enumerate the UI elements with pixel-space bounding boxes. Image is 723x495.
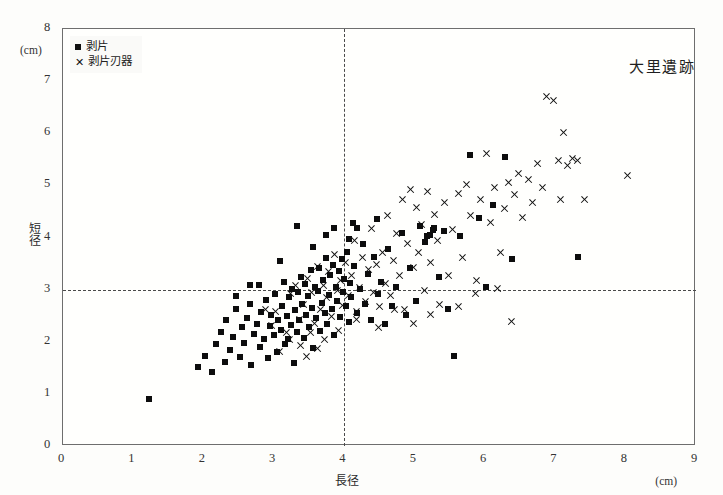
data-point-flake: [244, 315, 250, 321]
data-point-flake: [256, 282, 262, 288]
data-point-flake: [382, 321, 388, 327]
data-point-flake: [445, 306, 451, 312]
data-point-flake: [457, 233, 463, 239]
data-point-flake-blade: [409, 263, 418, 272]
data-point-flake-blade: [524, 175, 533, 184]
y-tick-label: 8: [44, 20, 50, 35]
data-point-flake-blade: [559, 128, 568, 137]
data-point-flake-blade: [350, 236, 359, 245]
data-point-flake-blade: [414, 248, 423, 257]
data-point-flake-blade: [493, 284, 502, 293]
data-point-flake-blade: [390, 305, 399, 314]
data-point-flake-blade: [500, 204, 509, 213]
data-point-flake: [303, 312, 309, 318]
site-title: 大里遺跡: [629, 55, 695, 76]
data-point-flake-blade: [426, 310, 435, 319]
data-point-flake-blade: [462, 180, 471, 189]
data-point-flake: [350, 220, 356, 226]
data-point-flake-blade: [374, 323, 383, 332]
data-point-flake: [257, 344, 263, 350]
data-point-flake-blade: [528, 198, 537, 207]
square-marker-icon: [75, 44, 81, 50]
data-point-flake: [146, 396, 152, 402]
data-point-flake-blade: [507, 317, 516, 326]
data-point-flake-blade: [367, 224, 376, 233]
data-point-flake: [354, 225, 360, 231]
data-point-flake-blade: [341, 258, 350, 267]
data-point-flake: [294, 223, 300, 229]
data-point-flake: [476, 215, 482, 221]
data-point-flake: [233, 293, 239, 299]
x-tick-label: 0: [58, 451, 64, 466]
data-point-flake: [202, 353, 208, 359]
data-point-flake-blade: [440, 198, 449, 207]
data-point-flake-blade: [476, 195, 485, 204]
data-point-flake-blade: [406, 185, 415, 194]
legend-label-flake-blade: 剥片刃器: [88, 54, 132, 69]
x-axis-title: 長径: [335, 471, 359, 489]
x-tick-label: 1: [128, 451, 134, 466]
data-point-flake-blade: [420, 286, 429, 295]
data-point-flake-blade: [458, 253, 467, 262]
data-point-flake: [295, 289, 301, 295]
data-point-flake: [413, 298, 419, 304]
data-point-flake-blade: [285, 335, 294, 344]
data-point-flake-blade: [361, 297, 370, 306]
data-point-flake: [323, 255, 329, 261]
data-point-flake-blade: [324, 267, 333, 276]
data-point-flake-blade: [336, 276, 345, 285]
x-marker-icon: ✕: [75, 58, 83, 66]
data-point-flake-blade: [518, 213, 527, 222]
data-point-flake-blade: [426, 258, 435, 267]
data-point-flake-blade: [355, 283, 364, 292]
data-point-flake-blade: [471, 289, 480, 298]
y-tick-label: 0: [44, 437, 50, 452]
data-point-flake-blade: [398, 195, 407, 204]
data-point-flake: [291, 360, 297, 366]
data-point-flake: [247, 282, 253, 288]
data-point-flake-blade: [261, 305, 270, 314]
data-point-flake-blade: [286, 289, 295, 298]
legend-item-flake: 剥片: [75, 39, 132, 54]
data-point-flake-blade: [381, 279, 390, 288]
data-point-flake-blade: [299, 300, 308, 309]
data-point-flake: [436, 274, 442, 280]
data-point-flake-blade: [448, 225, 457, 234]
data-point-flake-blade: [554, 156, 563, 165]
data-point-flake: [360, 241, 366, 247]
data-point-flake-blade: [316, 305, 325, 314]
data-point-flake-blade: [472, 276, 481, 285]
data-point-flake-blade: [549, 96, 558, 105]
data-point-flake: [251, 331, 257, 337]
y-tick-label: 7: [44, 72, 50, 87]
data-point-flake: [263, 297, 269, 303]
data-point-flake-blade: [573, 156, 582, 165]
data-point-flake-blade: [486, 218, 495, 227]
data-point-flake: [347, 280, 353, 286]
data-point-flake: [331, 225, 337, 231]
y-tick-label: 1: [44, 385, 50, 400]
data-point-flake: [336, 268, 342, 274]
y-tick-label: 4: [44, 229, 50, 244]
data-point-flake: [309, 305, 315, 311]
data-point-flake-blade: [430, 210, 439, 219]
data-point-flake-blade: [444, 271, 453, 280]
data-point-flake: [317, 328, 323, 334]
y-axis-unit: (cm): [20, 44, 42, 56]
x-tick-label: 4: [339, 451, 345, 466]
data-point-flake: [441, 228, 447, 234]
data-point-flake: [239, 324, 245, 330]
data-point-flake: [351, 263, 357, 269]
y-tick-label: 2: [44, 333, 50, 348]
data-point-flake-blade: [313, 262, 322, 271]
data-point-flake-blade: [352, 315, 361, 324]
data-point-flake: [575, 254, 581, 260]
data-point-flake: [275, 317, 281, 323]
data-point-flake: [509, 256, 515, 262]
data-point-flake: [422, 239, 428, 245]
legend: 剥片 ✕ 剥片刃器: [70, 36, 142, 73]
data-point-flake-blade: [510, 190, 519, 199]
data-point-flake-blade: [409, 319, 418, 328]
data-point-flake: [271, 332, 277, 338]
data-point-flake-blade: [271, 307, 280, 316]
